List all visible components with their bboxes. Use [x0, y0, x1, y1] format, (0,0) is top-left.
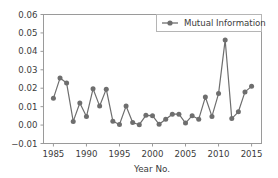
y-tick-label: 0.01: [18, 102, 37, 112]
legend-marker-sample: [167, 20, 172, 25]
legend-entry-label: Mutual Information: [184, 18, 266, 28]
y-tick-label: 0.02: [18, 83, 37, 93]
x-tick-label: 1990: [76, 149, 98, 159]
series-data-point: [110, 119, 115, 124]
data-series-group: [51, 37, 254, 127]
y-tick-label: 0.05: [18, 28, 37, 38]
y-tick-label: 0.04: [18, 46, 37, 56]
y-axis: −0.010.000.010.020.030.040.050.06: [11, 10, 43, 149]
series-data-point: [84, 114, 89, 119]
series-data-point: [71, 119, 76, 124]
series-data-point: [216, 91, 221, 96]
series-data-point: [249, 84, 254, 89]
series-data-point: [190, 113, 195, 118]
mutual-information-line-chart: −0.010.000.010.020.030.040.050.06 198519…: [0, 0, 278, 178]
x-tick-label: 2010: [208, 149, 230, 159]
series-data-point: [209, 114, 214, 119]
y-tick-label: 0.06: [18, 10, 37, 20]
series-line: [53, 40, 251, 125]
x-tick-label: 2015: [241, 149, 263, 159]
series-data-point: [58, 76, 63, 81]
x-tick-label: 2005: [175, 149, 197, 159]
x-tick-label: 2000: [142, 149, 164, 159]
series-data-point: [97, 104, 102, 109]
y-tick-label: 0.00: [18, 120, 37, 130]
y-tick-label: −0.01: [11, 139, 37, 149]
series-data-point: [117, 122, 122, 127]
series-data-point: [236, 109, 241, 114]
series-data-point: [124, 104, 129, 109]
series-data-point: [176, 112, 181, 117]
x-tick-label: 1985: [42, 149, 64, 159]
series-data-point: [223, 37, 228, 42]
y-tick-label: 0.03: [18, 65, 37, 75]
x-axis-title: Year No.: [133, 164, 170, 174]
series-data-point: [170, 112, 175, 117]
series-data-point: [64, 81, 69, 86]
chart-figure: −0.010.000.010.020.030.040.050.06 198519…: [0, 0, 278, 178]
series-data-point: [104, 87, 109, 92]
chart-legend: Mutual Information: [157, 15, 266, 32]
x-tick-label: 1995: [109, 149, 131, 159]
series-data-point: [91, 86, 96, 91]
x-axis: 1985199019952000200520102015: [42, 144, 262, 159]
series-data-point: [196, 117, 201, 122]
series-data-point: [77, 100, 82, 105]
series-data-point: [130, 120, 135, 125]
series-data-point: [51, 96, 56, 101]
series-data-point: [157, 122, 162, 127]
series-data-point: [242, 89, 247, 94]
series-data-point: [150, 113, 155, 118]
series-data-point: [143, 113, 148, 118]
series-data-point: [229, 116, 234, 121]
series-data-point: [163, 117, 168, 122]
series-data-point: [203, 95, 208, 100]
series-data-point: [183, 121, 188, 126]
series-data-point: [137, 122, 142, 127]
